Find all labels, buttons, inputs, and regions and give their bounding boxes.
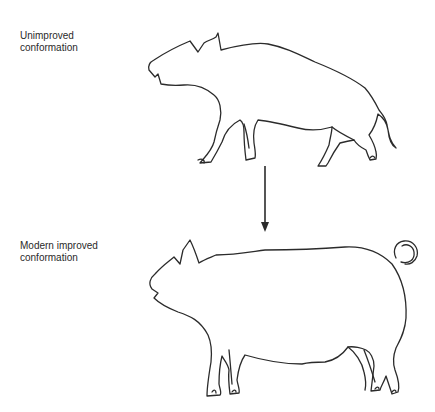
diagram-canvas: Unimproved conformation Modern improved … xyxy=(0,0,435,412)
unimproved-pig-outline xyxy=(149,33,396,166)
diagram-drawing xyxy=(0,0,435,412)
improved-pig-outline xyxy=(150,240,418,396)
arrow-head-icon xyxy=(261,222,269,232)
transition-arrow xyxy=(261,166,269,232)
